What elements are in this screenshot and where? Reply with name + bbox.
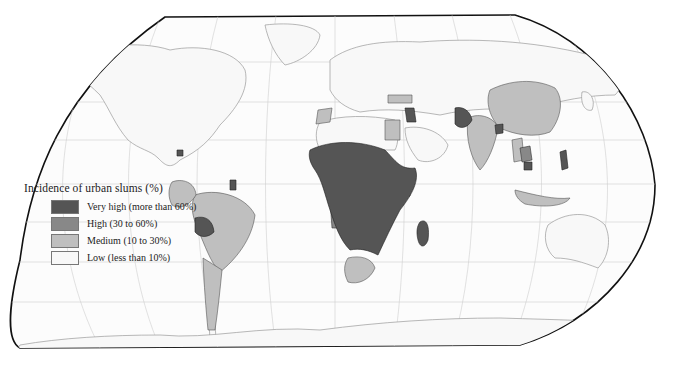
- legend-item-low: Low (less than 10%): [51, 249, 196, 266]
- legend-item-medium: Medium (10 to 30%): [51, 232, 196, 249]
- legend-item-very-high: Very high (more than 60%): [51, 198, 196, 215]
- swatch-medium: [51, 234, 79, 248]
- legend-label: Very high (more than 60%): [87, 201, 196, 212]
- legend-label: High (30 to 60%): [87, 218, 157, 229]
- swatch-high: [51, 217, 79, 231]
- legend-title: Incidence of urban slums (%): [24, 182, 196, 194]
- legend-label: Medium (10 to 30%): [87, 235, 171, 246]
- legend: Incidence of urban slums (%) Very high (…: [24, 182, 196, 266]
- legend-item-high: High (30 to 60%): [51, 215, 196, 232]
- legend-label: Low (less than 10%): [87, 252, 170, 263]
- swatch-very-high: [51, 200, 79, 214]
- swatch-low: [51, 251, 79, 265]
